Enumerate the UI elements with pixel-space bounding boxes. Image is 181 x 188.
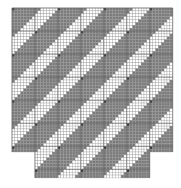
weave-cell [118,115,121,118]
weave-cell [164,83,167,86]
weave-cell [64,109,67,112]
weave-cell [26,71,29,74]
weave-cell [18,51,21,54]
weave-cell [124,17,127,20]
weave-cell [89,103,92,106]
weave-cell [29,43,32,46]
weave-cell [101,63,104,66]
weave-cell [133,126,136,129]
weave-cell [87,169,90,172]
weave-cell [12,57,15,60]
weave-cell [167,60,170,63]
weave-cell [127,17,130,20]
weave-cell [112,31,115,34]
weave-cell [170,117,173,120]
weave-cell [98,140,101,143]
weave-cell [124,112,127,115]
weave-cell [133,149,136,152]
weave-cell [21,48,24,51]
weave-cell [110,175,113,178]
weave-cell [44,129,47,132]
weave-cell [81,45,84,48]
weave-cell [23,74,26,77]
weave-cell [52,48,55,51]
weave-cell [46,120,49,123]
weave-cell [147,25,150,28]
weave-cell [38,54,41,57]
weave-cell [84,146,87,149]
weave-cell [75,86,78,89]
weave-cell [44,126,47,129]
weave-cell [98,31,101,34]
weave-cell [72,132,75,135]
weave-cell [115,71,118,74]
weave-cell [104,48,107,51]
weave-cell [101,89,104,92]
weave-cell [12,129,15,132]
weave-cell [130,100,133,103]
weave-cell [38,123,41,126]
weave-cell [29,112,32,115]
weave-cell [75,8,78,11]
weave-cell [161,103,164,106]
weave-cell [89,43,92,46]
weave-cell [135,135,138,138]
weave-cell [89,123,92,126]
weave-cell [15,97,18,100]
weave-cell [41,120,44,123]
weave-cell [133,31,136,34]
weave-cell [144,146,147,149]
weave-cell [144,123,147,126]
weave-cell [135,129,138,132]
weave-cell [112,74,115,77]
weave-cell [133,28,136,31]
weave-cell [49,120,52,123]
weave-cell [144,57,147,60]
weave-cell [95,140,98,143]
weave-cell [46,57,49,60]
weave-cell [107,143,110,146]
weave-cell [61,63,64,66]
weave-cell [55,89,58,92]
weave-cell [167,138,170,141]
weave-cell [112,126,115,129]
weave-cell [64,120,67,123]
weave-cell [127,169,130,172]
weave-cell [98,40,101,43]
weave-cell [49,100,52,103]
weave-cell [144,11,147,14]
weave-cell [78,14,81,17]
weave-cell [110,89,113,92]
weave-cell [124,14,127,17]
weave-cell [110,51,113,54]
weave-cell [153,146,156,149]
weave-cell [23,71,26,74]
weave-cell [81,175,84,178]
weave-cell [61,172,64,175]
weave-cell [18,89,21,92]
weave-cell [67,25,70,28]
weave-cell [32,20,35,23]
weave-cell [23,37,26,40]
weave-cell [49,123,52,126]
weave-cell [138,143,141,146]
weave-cell [35,34,38,37]
weave-cell [141,169,144,172]
weave-cell [153,28,156,31]
weave-cell [135,175,138,178]
weave-cell [92,28,95,31]
weave-cell [35,66,38,69]
weave-cell [12,138,15,141]
weave-cell [133,57,136,60]
weave-cell [18,103,21,106]
weave-cell [138,126,141,129]
weave-cell [69,31,72,34]
weave-cell [101,8,104,11]
weave-cell [112,51,115,54]
weave-cell [144,161,147,164]
weave-cell [156,74,159,77]
weave-cell [18,92,21,95]
weave-cell [104,100,107,103]
weave-cell [112,63,115,66]
weave-cell [98,48,101,51]
